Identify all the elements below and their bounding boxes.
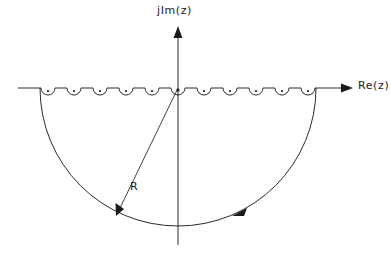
pole-dot-8 bbox=[229, 90, 231, 92]
pole-dot-10 bbox=[281, 90, 283, 92]
contour-diagram bbox=[0, 0, 391, 260]
pole-dot-3 bbox=[99, 90, 101, 92]
real-axis-arrow-icon bbox=[341, 84, 353, 93]
radius-label: R bbox=[130, 180, 138, 193]
imaginary-axis-arrow-icon bbox=[174, 26, 183, 38]
pole-dot-9 bbox=[255, 90, 257, 92]
pole-dot-5 bbox=[151, 90, 153, 92]
pole-dot-7 bbox=[203, 90, 205, 92]
imaginary-axis-label: jIm(z) bbox=[157, 4, 192, 17]
pole-dot-4 bbox=[125, 90, 127, 92]
real-axis-label: Re(z) bbox=[358, 79, 389, 92]
radius-line bbox=[120, 88, 178, 208]
figure-container: jIm(z) Re(z) R bbox=[0, 0, 391, 260]
pole-dot-11 bbox=[307, 90, 309, 92]
pole-dot-2 bbox=[73, 90, 75, 92]
pole-dot-1 bbox=[47, 90, 49, 92]
